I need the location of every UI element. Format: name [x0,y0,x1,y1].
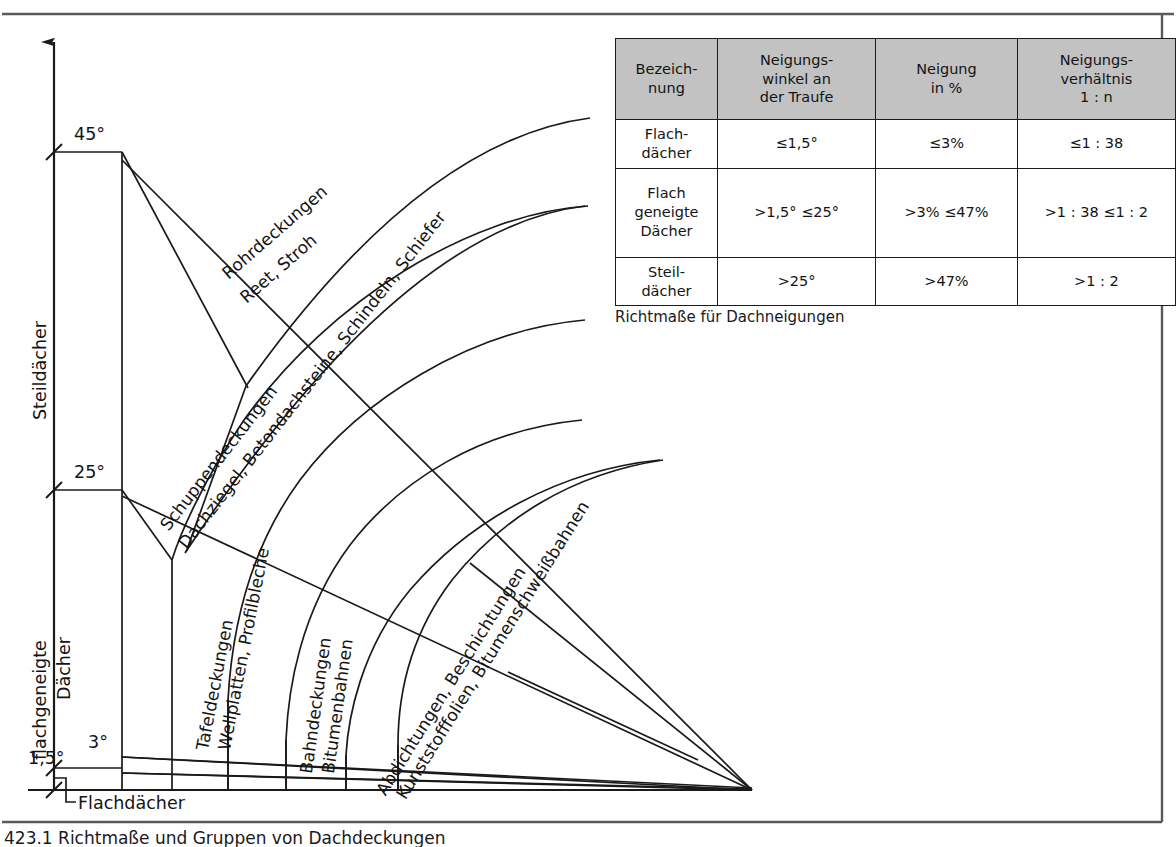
cell-percent-steildaecher: >47% [876,257,1017,306]
axis-label-flachgeneigte: flachgeneigte [30,640,50,760]
table-row: Steil-dächer >25° >47% >1 : 2 [616,257,1176,306]
cell-name-steildaecher: Steil-dächer [616,257,718,306]
axis-label-daecher: Dächer [54,637,74,700]
tick-label-45: 45° [74,124,105,144]
cell-ratio-steildaecher: >1 : 2 [1017,257,1175,306]
cell-angle-flachdaecher: ≤1,5° [717,120,875,169]
table-header-bezeichnung: Bezeich-nung [616,39,718,120]
cell-ratio-flachdaecher: ≤1 : 38 [1017,120,1175,169]
roof-pitch-table: Bezeich-nung Neigungs-winkel ander Trauf… [615,38,1176,306]
figure-page: Steildächer flachgeneigte Dächer 45° 25°… [0,0,1176,847]
cell-name-flachdaecher: Flach-dächer [616,120,718,169]
axis-label-flachdaecher: Flachdächer [78,793,185,813]
cell-ratio-flachgeneigte: >1 : 38 ≤1 : 2 [1017,168,1175,257]
cell-name-flachgeneigte: FlachgeneigteDächer [616,168,718,257]
table-caption: Richtmaße für Dachneigungen [615,308,844,326]
table-header-row: Bezeich-nung Neigungs-winkel ander Trauf… [616,39,1176,120]
table-header-neigungsverhaeltnis: Neigungs-verhältnis1 : n [1017,39,1175,120]
tick-label-3: 3° [88,732,108,752]
axis-label-steildaecher: Steildächer [30,321,50,420]
tick-label-25: 25° [74,462,105,482]
table-row: FlachgeneigteDächer >1,5° ≤25° >3% ≤47% … [616,168,1176,257]
table-header-neigung-prozent: Neigungin % [876,39,1017,120]
table-row: Flach-dächer ≤1,5° ≤3% ≤1 : 38 [616,120,1176,169]
tick-label-1-5: 1,5° [28,748,65,768]
cell-angle-flachgeneigte: >1,5° ≤25° [717,168,875,257]
figure-caption: 423.1 Richtmaße und Gruppen von Dachdeck… [4,828,446,847]
cell-angle-steildaecher: >25° [717,257,875,306]
cell-percent-flachdaecher: ≤3% [876,120,1017,169]
table-header-neigungswinkel: Neigungs-winkel ander Traufe [717,39,875,120]
cell-percent-flachgeneigte: >3% ≤47% [876,168,1017,257]
